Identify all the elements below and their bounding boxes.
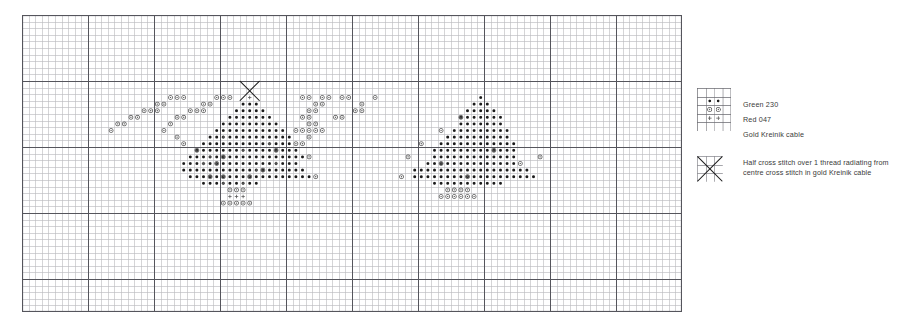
- chart-grid-area: [22, 15, 682, 312]
- legend-symbol-key-grid: [697, 88, 731, 131]
- radiating-stitch-key-icon: [697, 156, 723, 182]
- legend-item-green: Green 230: [743, 100, 778, 110]
- cross-stitch-chart-page: Green 230 Red 047 Gold Kreinik cable Hal…: [0, 0, 903, 327]
- legend-item-gold: Gold Kreinik cable: [743, 130, 804, 140]
- radiating-stitch-note-line-2: centre cross stitch in gold Kreinik cabl…: [743, 168, 903, 178]
- radiating-stitch-note: Half cross stitch over 1 thread radiatin…: [743, 158, 903, 179]
- legend: Green 230 Red 047 Gold Kreinik cable Hal…: [697, 88, 897, 198]
- chart-stitch-symbols-canvas: [22, 15, 682, 312]
- legend-item-red: Red 047: [743, 115, 771, 125]
- radiating-stitch-note-line-1: Half cross stitch over 1 thread radiatin…: [743, 158, 903, 168]
